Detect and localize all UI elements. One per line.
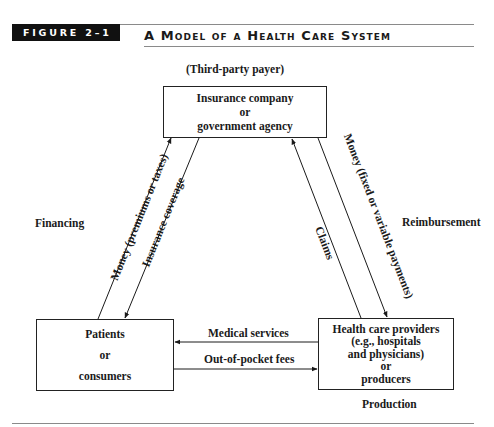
medical-services-label: Medical services [208,327,289,339]
insurer-node: Insurance company or government agency [163,86,327,138]
financing-label: Financing [35,217,84,229]
patients-line-2: or [100,348,111,362]
providers-line-4: or [381,360,392,373]
providers-line-1: Health care providers [333,323,440,336]
production-caption: Production [362,398,417,410]
providers-node: Health care providers (e.g., hospitals a… [318,318,454,390]
patients-node: Patients or consumers [36,319,174,391]
providers-line-3: and physicians) [348,348,424,361]
reimbursement-label: Reimbursement [402,216,481,228]
providers-line-5: producers [361,373,411,386]
third-party-payer-caption: (Third-party payer) [186,63,284,75]
patients-line-1: Patients [85,327,125,341]
providers-line-2: (e.g., hospitals [351,335,421,348]
claims-arrow [292,139,361,318]
insurer-line-3: government agency [197,119,293,133]
insurer-line-1: Insurance company [197,91,294,105]
insurer-line-2: or [240,105,251,119]
out-of-pocket-label: Out-of-pocket fees [204,353,294,365]
patients-line-3: consumers [79,369,131,383]
footer-rule [12,423,474,424]
health-care-model-figure: FIGURE 2–1 A Model of a Health Care Syst… [0,0,494,427]
